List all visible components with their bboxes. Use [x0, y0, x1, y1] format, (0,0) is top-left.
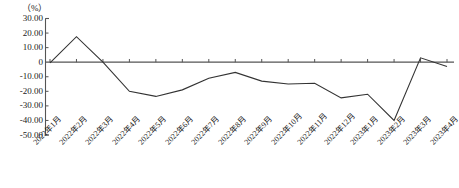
line-chart: （%） 30.0020.0010.000-10.00-20.00-30.00-4…	[0, 0, 459, 188]
x-axis-tick-label: 2023年4月	[427, 113, 459, 147]
x-axis-tick-labels: 2022年1月2022年2月2022年3月2022年4月2022年5月2022年…	[0, 0, 459, 188]
x-axis-tick-label: 2023年2月	[374, 113, 407, 147]
x-axis-tick-label: 2022年5月	[135, 113, 168, 147]
x-axis-tick-label: 2022年1月	[30, 113, 63, 147]
x-axis-tick-label: 2022年3月	[82, 113, 115, 147]
